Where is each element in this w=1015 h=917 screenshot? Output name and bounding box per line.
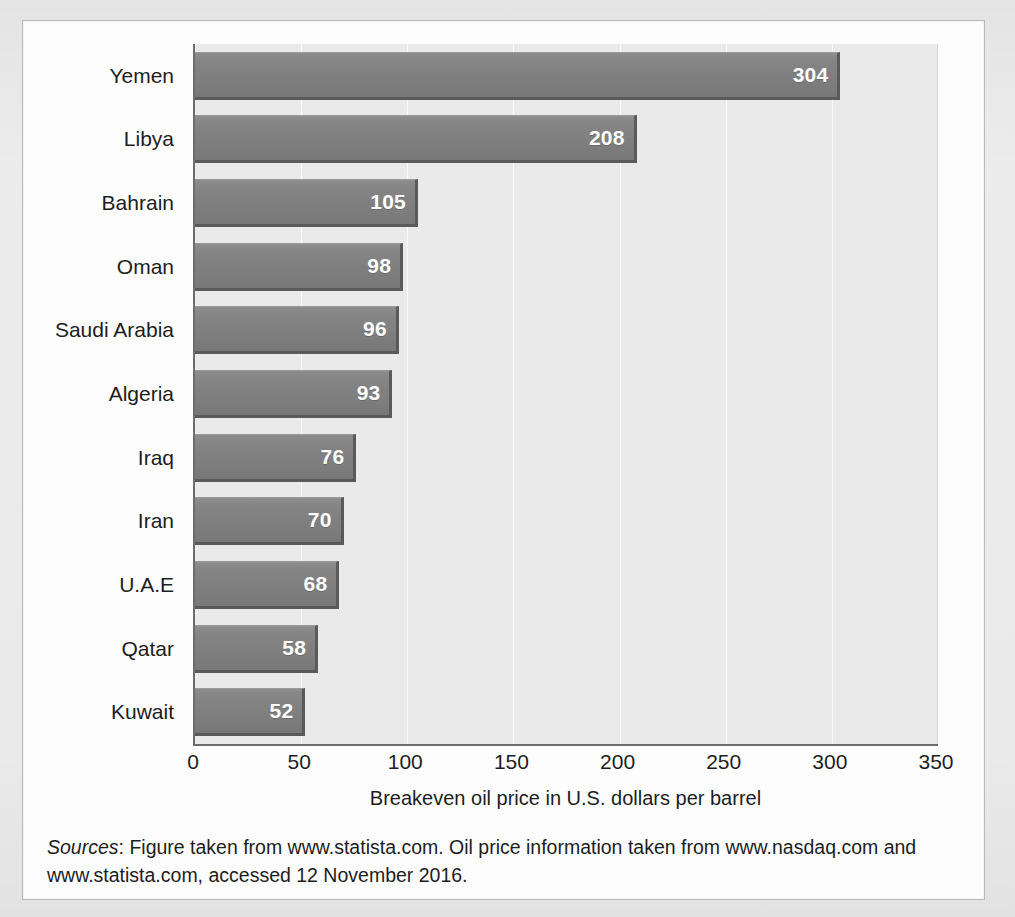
x-tick-label: 350 [918, 750, 953, 774]
bar-value-label: 98 [367, 254, 400, 278]
bar-value-label: 52 [270, 699, 303, 723]
x-tick-label: 100 [388, 750, 423, 774]
bar: 58 [195, 625, 318, 673]
plot-area: 3042081059896937670685852 [193, 44, 938, 746]
sources-label: Sources [47, 836, 119, 858]
x-tick-label: 300 [812, 750, 847, 774]
bar-value-label: 58 [282, 636, 315, 660]
bar: 304 [195, 52, 840, 100]
bar-chart: YemenLibyaBahrainOmanSaudi ArabiaAlgeria… [23, 21, 986, 821]
bar-value-label: 70 [308, 508, 341, 532]
bar-value-label: 93 [357, 381, 390, 405]
category-axis-labels: YemenLibyaBahrainOmanSaudi ArabiaAlgeria… [23, 44, 186, 744]
bar: 70 [195, 497, 344, 545]
x-tick-label: 250 [706, 750, 741, 774]
x-tick-label: 0 [187, 750, 199, 774]
bar: 68 [195, 561, 339, 609]
bar-series: 3042081059896937670685852 [195, 44, 938, 744]
bar-value-label: 96 [363, 317, 396, 341]
bar: 105 [195, 179, 418, 227]
bar: 208 [195, 115, 637, 163]
bar-value-label: 68 [304, 572, 337, 596]
bar: 98 [195, 243, 403, 291]
bar-value-label: 304 [793, 63, 838, 87]
x-tick-label: 150 [494, 750, 529, 774]
bar-value-label: 76 [321, 445, 354, 469]
bar: 76 [195, 434, 356, 482]
bar-value-label: 105 [370, 190, 415, 214]
x-tick-label: 200 [600, 750, 635, 774]
bar: 52 [195, 688, 305, 736]
gridline [938, 44, 939, 744]
x-tick-label: 50 [287, 750, 310, 774]
bar: 93 [195, 370, 392, 418]
x-axis-title: Breakeven oil price in U.S. dollars per … [193, 787, 938, 810]
bar: 96 [195, 306, 399, 354]
bar-value-label: 208 [589, 126, 634, 150]
sources-text: : Figure taken from www.statista.com. Oi… [47, 836, 916, 886]
sources-note: Sources: Figure taken from www.statista.… [47, 833, 962, 890]
value-axis-ticks: 050100150200250300350 [193, 750, 938, 780]
figure-card: YemenLibyaBahrainOmanSaudi ArabiaAlgeria… [22, 20, 985, 900]
